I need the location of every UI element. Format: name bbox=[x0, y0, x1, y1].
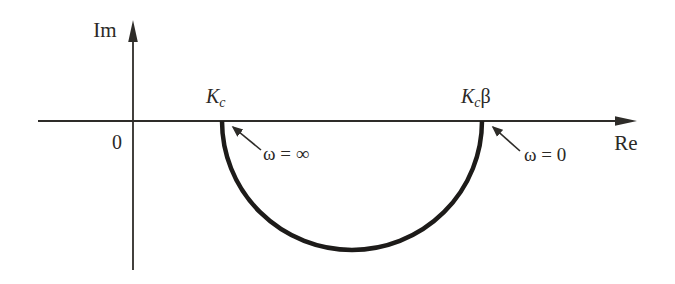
nyquist-diagram: Im Re 0 Kc Kcβ ω = ∞ ω = 0 bbox=[0, 0, 675, 284]
kc-point-label: Kc bbox=[205, 85, 226, 110]
omega-infinity-arrow bbox=[233, 127, 261, 150]
origin-label: 0 bbox=[112, 131, 122, 153]
nyquist-curve bbox=[222, 121, 482, 250]
kc-beta-suffix: β bbox=[481, 85, 491, 108]
re-axis-label: Re bbox=[614, 131, 637, 155]
omega-zero-label: ω = 0 bbox=[524, 144, 566, 165]
omega-zero-arrow bbox=[493, 127, 520, 151]
diagram-canvas: Im Re 0 Kc Kcβ ω = ∞ ω = 0 bbox=[0, 0, 675, 284]
im-axis-arrowhead bbox=[128, 20, 138, 42]
omega-infinity-label: ω = ∞ bbox=[263, 143, 309, 164]
im-axis-label: Im bbox=[93, 18, 116, 42]
kc-beta-point-label: Kcβ bbox=[460, 85, 491, 110]
re-axis-arrowhead bbox=[615, 116, 637, 126]
kc-subscript: c bbox=[219, 95, 226, 110]
